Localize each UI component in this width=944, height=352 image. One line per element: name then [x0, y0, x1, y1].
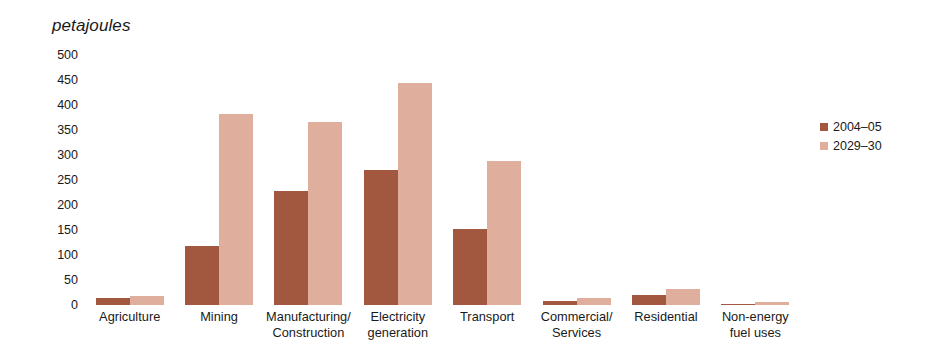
bar-series-2[interactable] — [577, 298, 611, 305]
legend-swatch-icon — [820, 123, 828, 131]
bar-series-1[interactable] — [185, 246, 219, 305]
bar-group — [621, 55, 710, 305]
bar-series-1[interactable] — [96, 298, 130, 306]
y-axis-tick-label: 100 — [57, 249, 78, 262]
bar-chart: petajoules 50045040035030025020015010050… — [0, 0, 944, 352]
y-axis-tick-label: 200 — [57, 199, 78, 212]
y-axis-tick-label: 450 — [57, 74, 78, 87]
bar-series-2[interactable] — [130, 296, 164, 305]
bar-series-2[interactable] — [308, 122, 342, 306]
x-axis: AgricultureMiningManufacturing/ Construc… — [85, 309, 800, 352]
bar-group — [264, 55, 353, 305]
y-axis-tick-label: 500 — [57, 49, 78, 62]
legend-item[interactable]: 2029–30 — [820, 136, 882, 155]
bar-series-2[interactable] — [398, 83, 432, 306]
plot-area — [85, 55, 800, 305]
bar-group — [174, 55, 263, 305]
y-axis-tick-label: 400 — [57, 99, 78, 112]
legend-label: 2004–05 — [833, 120, 882, 134]
legend-swatch-icon — [820, 142, 828, 150]
bar-series-2[interactable] — [666, 289, 700, 306]
y-axis-tick-label: 250 — [57, 174, 78, 187]
legend-label: 2029–30 — [833, 139, 882, 153]
chart-legend: 2004–052029–30 — [820, 117, 882, 155]
bar-series-2[interactable] — [755, 302, 789, 306]
y-axis-tick-label: 350 — [57, 124, 78, 137]
bar-group — [353, 55, 442, 305]
bar-group — [85, 55, 174, 305]
y-axis-tick-label: 150 — [57, 224, 78, 237]
x-axis-category-label: Non-energy fuel uses — [679, 309, 831, 340]
bar-group — [532, 55, 621, 305]
bar-group — [711, 55, 800, 305]
bar-series-1[interactable] — [543, 301, 577, 305]
bar-series-1[interactable] — [632, 295, 666, 305]
bar-group — [443, 55, 532, 305]
legend-item[interactable]: 2004–05 — [820, 117, 882, 136]
bar-series-1[interactable] — [453, 229, 487, 306]
bar-series-1[interactable] — [721, 304, 755, 306]
bar-series-2[interactable] — [487, 161, 521, 305]
y-axis: 500450400350300250200150100500 — [0, 55, 78, 305]
bar-series-2[interactable] — [219, 114, 253, 305]
y-axis-tick-label: 50 — [64, 274, 78, 287]
y-axis-title: petajoules — [52, 16, 131, 36]
bar-series-1[interactable] — [274, 191, 308, 305]
bar-series-1[interactable] — [364, 170, 398, 305]
y-axis-tick-label: 300 — [57, 149, 78, 162]
